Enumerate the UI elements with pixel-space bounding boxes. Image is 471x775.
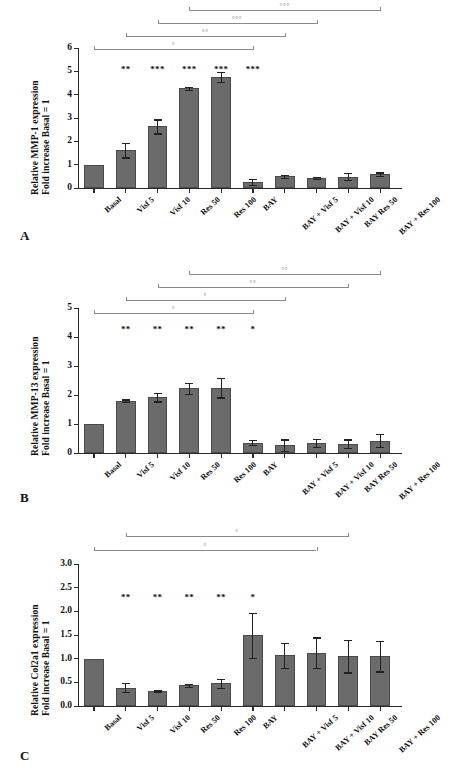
x-axis-tick: [157, 707, 158, 711]
x-axis-tick: [380, 189, 381, 193]
x-axis-tick: [221, 189, 222, 193]
y-axis-tick-label: 0.5: [38, 676, 72, 686]
panel-c: CRelative Col2a1 expressionFold increase…: [0, 520, 471, 775]
x-axis-tick: [348, 189, 349, 193]
significance-bracket-tick: [317, 20, 318, 24]
x-axis-tick: [221, 454, 222, 458]
error-bar-cap: [281, 178, 289, 179]
significance-bracket-tick: [94, 310, 95, 314]
significance-bracket: [158, 287, 349, 288]
x-axis-label: BAY: [261, 195, 279, 213]
y-axis-tick: [74, 395, 78, 396]
y-axis-tick-label: 1: [38, 418, 72, 428]
x-axis-label: Res 50: [199, 460, 222, 482]
significance-marker: **: [173, 324, 205, 334]
significance-bracket-label: °: [153, 305, 193, 313]
panel-b: BRelative MMP-13 expressionFold increase…: [0, 258, 471, 520]
error-bar-cap: [281, 668, 289, 669]
y-axis-tick-label: 1.5: [38, 629, 72, 639]
y-axis-tick: [74, 337, 78, 338]
y-axis-tick-label: 2.5: [38, 582, 72, 592]
x-axis-label: BAY + Res 100: [397, 713, 442, 755]
y-axis-tick: [74, 141, 78, 142]
significance-bracket: [126, 300, 285, 301]
y-axis-tick: [74, 188, 78, 189]
x-axis-tick: [125, 454, 126, 458]
error-bar-cap: [217, 82, 225, 83]
error-bar-cap: [122, 157, 130, 158]
x-axis-tick: [284, 189, 285, 193]
significance-marker: *: [237, 592, 269, 602]
x-axis-tick: [221, 707, 222, 711]
significance-bracket-tick: [126, 297, 127, 301]
x-axis-tick: [125, 189, 126, 193]
y-axis-tick-label: 3.0: [38, 558, 72, 568]
x-axis-tick: [348, 707, 349, 711]
error-bar-cap: [376, 641, 384, 642]
y-axis-tick: [74, 587, 78, 588]
error-bar-cap: [217, 378, 225, 379]
bar: [116, 401, 136, 453]
error-bar: [125, 683, 126, 692]
error-bar: [380, 641, 381, 671]
significance-bracket-label: °°°: [217, 15, 257, 23]
x-axis-tick: [380, 454, 381, 458]
significance-marker: *: [237, 324, 269, 334]
y-axis-tick-label: 1.0: [38, 653, 72, 663]
error-bar-cap: [281, 643, 289, 644]
significance-bracket: [189, 274, 380, 275]
x-axis-tick: [316, 707, 317, 711]
x-axis-line: [78, 706, 402, 707]
error-bar-cap: [122, 143, 130, 144]
x-axis-label: Visf 10: [168, 460, 192, 483]
error-bar-cap: [154, 119, 162, 120]
significance-bracket: [94, 49, 253, 50]
x-axis-tick: [189, 454, 190, 458]
y-axis-tick: [74, 635, 78, 636]
y-axis-tick-label: 0: [38, 447, 72, 457]
x-axis-label: Visf 10: [168, 195, 192, 218]
significance-bracket: [126, 36, 285, 37]
y-axis-tick-label: 5: [38, 302, 72, 312]
x-axis-tick: [189, 707, 190, 711]
error-bar: [284, 643, 285, 669]
y-axis-tick-label: 5: [38, 65, 72, 75]
x-axis-line: [78, 188, 402, 189]
significance-bracket-label: °: [153, 41, 193, 49]
significance-bracket-tick: [94, 46, 95, 50]
error-bar-cap: [313, 177, 321, 178]
error-bar-cap: [249, 658, 257, 659]
significance-marker: ***: [173, 64, 205, 74]
significance-bracket-label: °°°: [265, 2, 305, 10]
significance-bracket-tick: [126, 33, 127, 37]
x-axis-label: Res 100: [232, 195, 258, 220]
figure-container: ARelative MMP-1 expressionFold increase …: [0, 0, 471, 775]
error-bar-cap: [344, 672, 352, 673]
error-bar-cap: [376, 176, 384, 177]
significance-bracket-tick: [253, 46, 254, 50]
y-axis-tick: [74, 48, 78, 49]
error-bar: [221, 679, 222, 688]
bar: [179, 388, 199, 453]
x-axis-tick: [93, 454, 94, 458]
error-bar-cap: [376, 434, 384, 435]
y-axis-tick-label: 0.0: [38, 700, 72, 710]
significance-bracket-label: °°: [265, 266, 305, 274]
y-axis-tick-label: 6: [38, 42, 72, 52]
x-axis-label: Basal: [103, 713, 123, 732]
y-axis-tick: [74, 424, 78, 425]
significance-bracket-tick: [158, 284, 159, 288]
error-bar-cap: [344, 180, 352, 181]
significance-bracket-tick: [380, 7, 381, 11]
y-axis-tick-label: 2.0: [38, 605, 72, 615]
error-bar-cap: [344, 439, 352, 440]
y-axis-tick: [74, 94, 78, 95]
y-axis-tick: [74, 564, 78, 565]
x-axis-label: BAY + Res 100: [397, 460, 442, 502]
error-bar-cap: [249, 440, 257, 441]
significance-bracket: [94, 313, 253, 314]
x-axis-label: BAY: [261, 460, 279, 478]
x-axis-tick: [380, 707, 381, 711]
significance-bracket-tick: [285, 297, 286, 301]
error-bar: [284, 439, 285, 451]
